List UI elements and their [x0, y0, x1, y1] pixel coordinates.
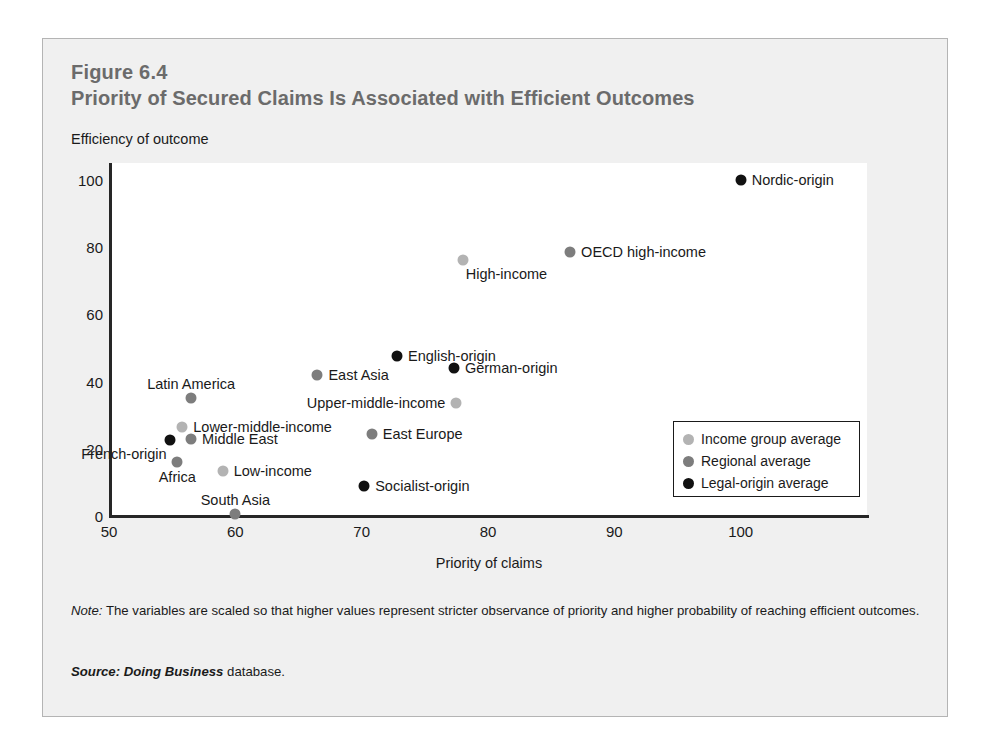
data-point — [359, 480, 370, 491]
data-point — [164, 435, 175, 446]
legend-item-label: Legal-origin average — [701, 475, 829, 491]
data-point-label: French-origin — [43, 446, 167, 462]
data-point-label: Low-income — [234, 463, 312, 479]
legend-item-label: Regional average — [701, 453, 811, 469]
data-point-label: East Europe — [383, 426, 463, 442]
data-point-label: Upper-middle-income — [43, 395, 445, 411]
y-axis-line — [109, 163, 112, 517]
x-tick-label: 80 — [480, 523, 497, 540]
note-label: Note: — [71, 603, 103, 618]
data-point — [230, 509, 241, 520]
legend-item-label: Income group average — [701, 431, 841, 447]
data-point-label: Socialist-origin — [375, 478, 469, 494]
legend-swatch-icon — [683, 478, 694, 489]
y-axis-ticks: 020406080100 — [51, 163, 103, 517]
y-tick-label: 0 — [59, 508, 103, 525]
data-point — [565, 247, 576, 258]
data-point — [177, 421, 188, 432]
data-point — [392, 351, 403, 362]
chart-legend: Income group averageRegional averageLega… — [673, 421, 860, 497]
data-point — [735, 174, 746, 185]
legend-swatch-icon — [683, 434, 694, 445]
data-point — [186, 433, 197, 444]
x-tick-label: 70 — [353, 523, 370, 540]
data-point-label: Latin America — [147, 376, 235, 392]
data-point-label: East Asia — [328, 367, 388, 383]
data-point — [366, 428, 377, 439]
note-text: The variables are scaled so that higher … — [103, 603, 920, 618]
data-point-label: German-origin — [465, 360, 558, 376]
figure-note: Note: The variables are scaled so that h… — [71, 602, 921, 621]
y-tick-label: 80 — [59, 239, 103, 256]
y-tick-label: 40 — [59, 373, 103, 390]
source-text: database. — [223, 664, 285, 679]
legend-item: Legal-origin average — [683, 472, 851, 494]
data-point — [457, 255, 468, 266]
x-tick-label: 60 — [227, 523, 244, 540]
legend-item: Income group average — [683, 428, 851, 450]
data-point — [186, 393, 197, 404]
figure-panel: Figure 6.4 Priority of Secured Claims Is… — [42, 38, 948, 717]
x-axis-line — [109, 515, 869, 518]
data-point-label: OECD high-income — [581, 244, 706, 260]
source-label: Source: — [71, 664, 120, 679]
x-tick-label: 50 — [101, 523, 118, 540]
legend-swatch-icon — [683, 456, 694, 467]
x-axis-ticks: 5060708090100 — [109, 523, 869, 545]
y-tick-label: 100 — [59, 171, 103, 188]
data-point — [172, 457, 183, 468]
data-point-label: Nordic-origin — [752, 172, 834, 188]
legend-item: Regional average — [683, 450, 851, 472]
data-point-label: Middle East — [202, 431, 278, 447]
x-tick-label: 90 — [606, 523, 623, 540]
figure-source: Source: Doing Business database. — [71, 664, 921, 679]
source-database-name: Doing Business — [120, 664, 223, 679]
x-axis-title: Priority of claims — [109, 555, 869, 571]
data-point — [451, 398, 462, 409]
data-point — [217, 465, 228, 476]
y-tick-label: 60 — [59, 306, 103, 323]
x-tick-label: 100 — [728, 523, 753, 540]
data-point-label: Africa — [159, 469, 196, 485]
data-point-label: High-income — [466, 266, 547, 282]
data-point — [312, 369, 323, 380]
data-point-label: South Asia — [201, 492, 270, 508]
data-point — [448, 363, 459, 374]
